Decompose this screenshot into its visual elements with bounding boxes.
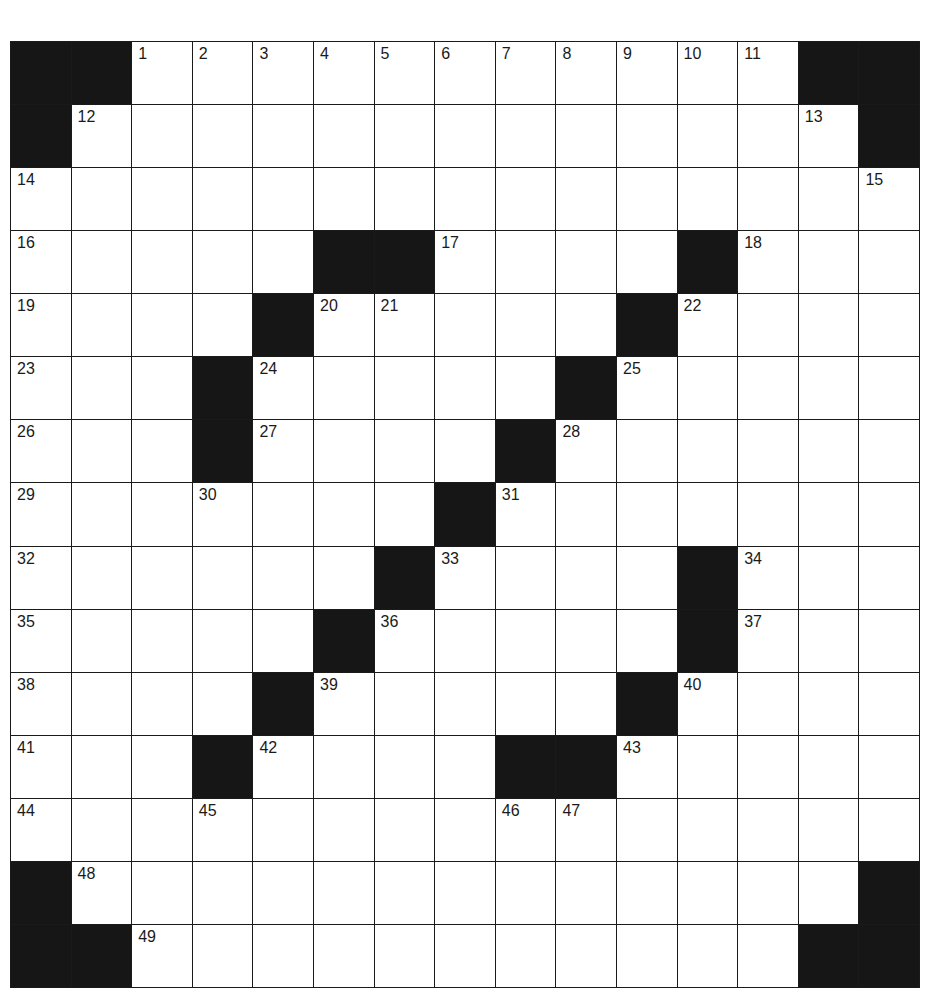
grid-cell[interactable]	[314, 420, 374, 482]
grid-cell[interactable]	[617, 168, 677, 230]
grid-cell[interactable]	[193, 610, 253, 672]
grid-cell[interactable]	[859, 357, 919, 419]
grid-cell[interactable]	[193, 231, 253, 293]
grid-cell[interactable]: 39	[314, 673, 374, 735]
grid-cell[interactable]	[799, 862, 859, 924]
grid-cell[interactable]: 44	[11, 799, 71, 861]
grid-cell[interactable]: 5	[375, 42, 435, 104]
grid-cell[interactable]	[617, 799, 677, 861]
grid-cell[interactable]	[253, 483, 313, 545]
grid-cell[interactable]	[496, 925, 556, 987]
grid-cell[interactable]	[799, 799, 859, 861]
grid-cell[interactable]	[556, 168, 616, 230]
grid-cell[interactable]	[314, 483, 374, 545]
grid-cell[interactable]: 22	[678, 294, 738, 356]
grid-cell[interactable]	[496, 294, 556, 356]
grid-cell[interactable]	[617, 547, 677, 609]
grid-cell[interactable]: 15	[859, 168, 919, 230]
grid-cell[interactable]	[678, 799, 738, 861]
grid-cell[interactable]: 23	[11, 357, 71, 419]
grid-cell[interactable]: 31	[496, 483, 556, 545]
grid-cell[interactable]	[72, 673, 132, 735]
grid-cell[interactable]	[72, 547, 132, 609]
grid-cell[interactable]	[253, 168, 313, 230]
grid-cell[interactable]	[496, 105, 556, 167]
grid-cell[interactable]	[799, 610, 859, 672]
grid-cell[interactable]	[193, 862, 253, 924]
grid-cell[interactable]	[617, 105, 677, 167]
grid-cell[interactable]: 3	[253, 42, 313, 104]
grid-cell[interactable]	[859, 610, 919, 672]
grid-cell[interactable]: 46	[496, 799, 556, 861]
grid-cell[interactable]	[72, 420, 132, 482]
grid-cell[interactable]	[435, 420, 495, 482]
grid-cell[interactable]: 40	[678, 673, 738, 735]
grid-cell[interactable]	[132, 736, 192, 798]
grid-cell[interactable]: 48	[72, 862, 132, 924]
grid-cell[interactable]	[435, 673, 495, 735]
grid-cell[interactable]	[72, 231, 132, 293]
grid-cell[interactable]	[253, 105, 313, 167]
grid-cell[interactable]	[72, 799, 132, 861]
grid-cell[interactable]	[72, 483, 132, 545]
grid-cell[interactable]	[435, 168, 495, 230]
grid-cell[interactable]: 16	[11, 231, 71, 293]
grid-cell[interactable]	[859, 483, 919, 545]
grid-cell[interactable]	[253, 799, 313, 861]
grid-cell[interactable]	[435, 736, 495, 798]
grid-cell[interactable]	[375, 420, 435, 482]
grid-cell[interactable]	[253, 231, 313, 293]
grid-cell[interactable]	[859, 673, 919, 735]
grid-cell[interactable]	[678, 736, 738, 798]
grid-cell[interactable]	[375, 925, 435, 987]
grid-cell[interactable]: 29	[11, 483, 71, 545]
grid-cell[interactable]: 14	[11, 168, 71, 230]
grid-cell[interactable]	[72, 168, 132, 230]
grid-cell[interactable]	[859, 420, 919, 482]
grid-cell[interactable]	[132, 547, 192, 609]
grid-cell[interactable]: 1	[132, 42, 192, 104]
grid-cell[interactable]	[496, 610, 556, 672]
grid-cell[interactable]	[253, 547, 313, 609]
grid-cell[interactable]	[678, 105, 738, 167]
grid-cell[interactable]	[132, 610, 192, 672]
grid-cell[interactable]	[738, 736, 798, 798]
grid-cell[interactable]: 26	[11, 420, 71, 482]
grid-cell[interactable]: 12	[72, 105, 132, 167]
grid-cell[interactable]	[253, 925, 313, 987]
grid-cell[interactable]: 32	[11, 547, 71, 609]
grid-cell[interactable]	[738, 105, 798, 167]
grid-cell[interactable]: 38	[11, 673, 71, 735]
grid-cell[interactable]	[799, 294, 859, 356]
grid-cell[interactable]	[132, 168, 192, 230]
grid-cell[interactable]: 35	[11, 610, 71, 672]
grid-cell[interactable]: 21	[375, 294, 435, 356]
grid-cell[interactable]	[375, 736, 435, 798]
grid-cell[interactable]	[72, 294, 132, 356]
grid-cell[interactable]: 37	[738, 610, 798, 672]
grid-cell[interactable]	[556, 483, 616, 545]
grid-cell[interactable]	[314, 547, 374, 609]
grid-cell[interactable]	[556, 862, 616, 924]
grid-cell[interactable]	[738, 294, 798, 356]
grid-cell[interactable]	[738, 799, 798, 861]
grid-cell[interactable]	[496, 231, 556, 293]
grid-cell[interactable]	[132, 420, 192, 482]
grid-cell[interactable]: 10	[678, 42, 738, 104]
grid-cell[interactable]	[375, 673, 435, 735]
grid-cell[interactable]: 18	[738, 231, 798, 293]
grid-cell[interactable]	[496, 673, 556, 735]
grid-cell[interactable]: 28	[556, 420, 616, 482]
grid-cell[interactable]: 4	[314, 42, 374, 104]
grid-cell[interactable]	[617, 420, 677, 482]
grid-cell[interactable]	[132, 294, 192, 356]
grid-cell[interactable]	[678, 168, 738, 230]
grid-cell[interactable]: 42	[253, 736, 313, 798]
grid-cell[interactable]	[375, 168, 435, 230]
grid-cell[interactable]	[738, 357, 798, 419]
grid-cell[interactable]	[193, 105, 253, 167]
grid-cell[interactable]: 17	[435, 231, 495, 293]
grid-cell[interactable]	[859, 547, 919, 609]
grid-cell[interactable]	[314, 105, 374, 167]
grid-cell[interactable]	[435, 294, 495, 356]
